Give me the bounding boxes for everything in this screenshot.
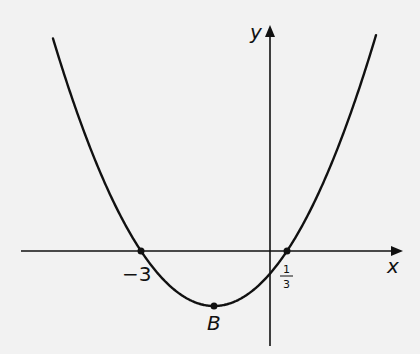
- root-point-right: [284, 248, 291, 255]
- root-point-left: [138, 248, 145, 255]
- root-right-label-denominator: 3: [283, 278, 290, 291]
- vertex-label: B: [207, 311, 221, 335]
- x-axis-label: x: [386, 254, 399, 278]
- y-axis-label: y: [249, 20, 263, 44]
- parabola-diagram: y x −3 1 3 B: [0, 0, 420, 354]
- parabola-curve: [53, 35, 376, 306]
- root-left-label: −3: [122, 262, 151, 286]
- vertex-point-b: [211, 303, 218, 310]
- y-axis-arrow-icon: [265, 25, 275, 37]
- root-right-label-numerator: 1: [283, 263, 290, 276]
